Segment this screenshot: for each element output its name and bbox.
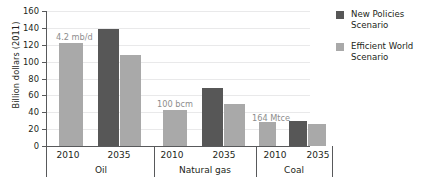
legend-label-new-policies: New Policies Scenario <box>351 9 441 30</box>
plot-area: 160 140 120 100 80 60 40 20 0 4.2 mb/d <box>46 11 310 146</box>
group-label-coal: Coal <box>264 165 324 175</box>
y-tick-label-40: 40 <box>13 108 39 116</box>
legend-item-new-policies[interactable]: New Policies Scenario <box>336 9 441 30</box>
legend-swatch-new-policies-icon <box>336 11 344 19</box>
legend-item-efficient-world[interactable]: Efficient World Scenario <box>336 41 441 62</box>
y-tick-label-60: 60 <box>13 91 39 99</box>
x-tick-label-gas-2035: 2035 <box>199 150 249 160</box>
bar-gas-2035-new-policies[interactable] <box>202 88 223 146</box>
y-tick-label-100: 100 <box>13 58 39 66</box>
legend: New Policies Scenario Efficient World Sc… <box>336 9 441 73</box>
x-tick-label-oil-2035: 2035 <box>94 150 144 160</box>
y-tick-label-120: 120 <box>13 41 39 49</box>
y-axis-line <box>46 11 47 147</box>
bar-gas-2010-efficient-world[interactable] <box>163 110 187 146</box>
y-tick-label-20: 20 <box>13 125 39 133</box>
bar-oil-2035-new-policies[interactable] <box>98 29 119 146</box>
bar-coal-2035-efficient-world[interactable] <box>308 124 326 146</box>
y-tick-label-80: 80 <box>13 75 39 83</box>
annotation-oil: 4.2 mb/d <box>56 32 93 42</box>
annotation-coal: 164 Mtce <box>252 113 290 123</box>
y-tick-label-160: 160 <box>13 7 39 15</box>
gridline-zero <box>46 146 310 147</box>
legend-label-efficient-world: Efficient World Scenario <box>351 41 441 62</box>
gridline-160 <box>46 11 310 12</box>
legend-label-efficient-world-line2: Scenario <box>351 52 441 63</box>
bar-chart-figure: Billion dollars (2011) 160 140 120 100 8… <box>0 0 441 189</box>
annotation-gas: 100 bcm <box>157 99 193 109</box>
gridline-100 <box>46 62 310 63</box>
x-tick-label-coal-2035: 2035 <box>293 150 343 160</box>
legend-label-new-policies-line1: New Policies <box>351 9 441 20</box>
x-tick-label-gas-2010: 2010 <box>147 150 197 160</box>
bar-gas-2035-efficient-world[interactable] <box>224 104 245 146</box>
gridline-60 <box>46 95 310 96</box>
gridline-140 <box>46 28 310 29</box>
bar-coal-2010-efficient-world[interactable] <box>259 122 276 146</box>
bar-oil-2035-efficient-world[interactable] <box>120 55 141 146</box>
y-tick-label-140: 140 <box>13 24 39 32</box>
gridline-80 <box>46 79 310 80</box>
y-tick-label-0: 0 <box>13 142 39 150</box>
bar-oil-2010-efficient-world[interactable] <box>59 43 83 146</box>
gridline-120 <box>46 45 310 46</box>
group-label-natural-gas: Natural gas <box>170 165 240 175</box>
bar-coal-2035-new-policies[interactable] <box>289 121 307 146</box>
legend-label-new-policies-line2: Scenario <box>351 20 441 31</box>
legend-label-efficient-world-line1: Efficient World <box>351 41 441 52</box>
x-tick-label-oil-2010: 2010 <box>43 150 93 160</box>
group-label-oil: Oil <box>71 165 131 175</box>
legend-swatch-efficient-world-icon <box>336 43 344 51</box>
